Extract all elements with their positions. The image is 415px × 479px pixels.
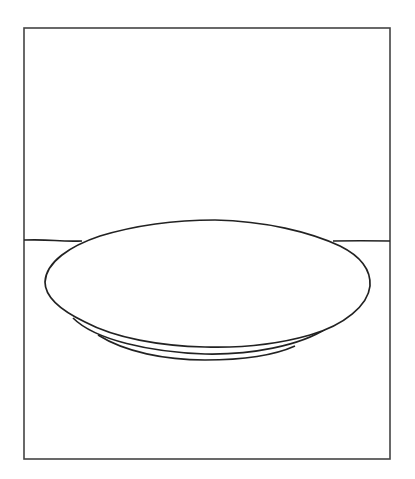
plate-drawing bbox=[0, 0, 415, 479]
table-edge-left bbox=[24, 240, 82, 241]
plate-rim bbox=[45, 220, 370, 347]
